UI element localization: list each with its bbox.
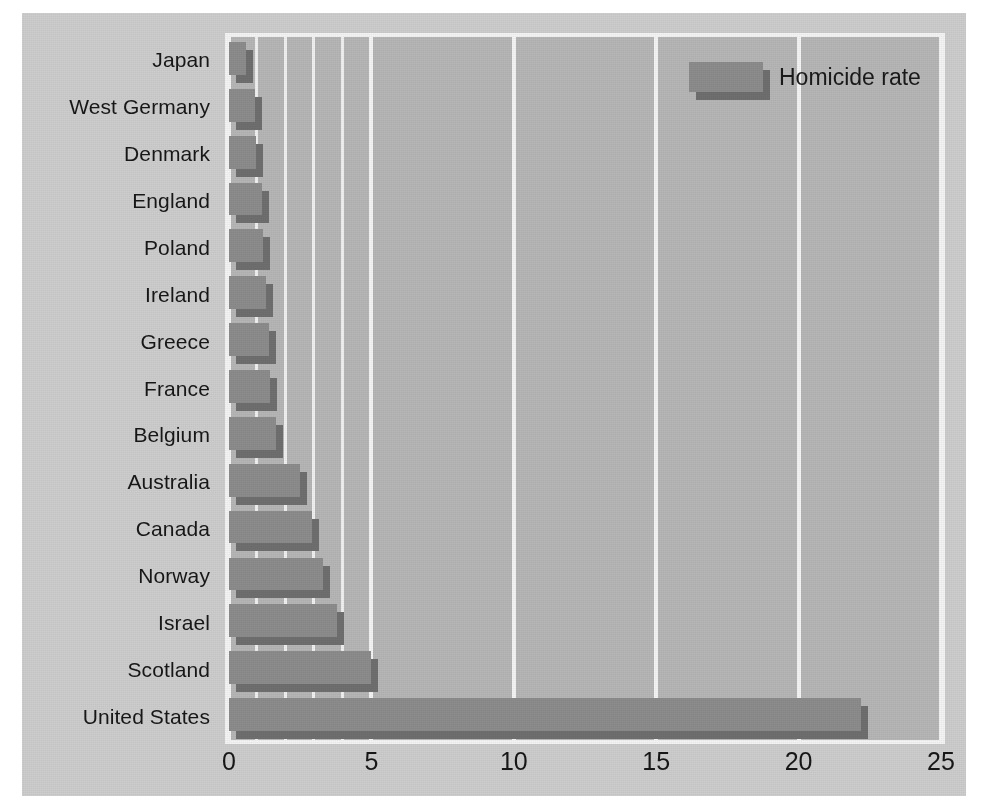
y-axis-tick-label: England <box>132 190 210 211</box>
bar-face <box>229 558 323 591</box>
bar-row[interactable] <box>229 229 941 262</box>
y-axis-tick-label: Canada <box>136 518 210 539</box>
bar[interactable] <box>229 42 246 75</box>
y-axis-tick-label: Japan <box>152 49 210 70</box>
y-axis-tick-label: Norway <box>138 565 210 586</box>
y-axis-tick-label: Belgium <box>133 424 210 445</box>
bar[interactable] <box>229 136 256 169</box>
bar-row[interactable] <box>229 323 941 356</box>
bar[interactable] <box>229 276 266 309</box>
bar[interactable] <box>229 417 276 450</box>
x-axis-labels: 0510152025 <box>225 749 945 793</box>
scan-canvas: JapanWest GermanyDenmarkEnglandPolandIre… <box>22 13 966 796</box>
bar-face <box>229 370 270 403</box>
x-axis-tick-label: 5 <box>364 749 378 774</box>
bar-face <box>229 323 269 356</box>
bar-row[interactable] <box>229 511 941 544</box>
bar-face <box>229 417 276 450</box>
bar-face <box>229 89 255 122</box>
y-axis-tick-label: Ireland <box>145 284 210 305</box>
bar-row[interactable] <box>229 558 941 591</box>
bar[interactable] <box>229 511 312 544</box>
y-axis-tick-label: Israel <box>158 612 210 633</box>
bar-face <box>229 698 861 731</box>
x-axis-tick-label: 10 <box>500 749 528 774</box>
bar-face <box>229 276 266 309</box>
bar-face <box>229 42 246 75</box>
bar[interactable] <box>229 604 337 637</box>
bar-rows <box>229 37 941 740</box>
bar-face <box>229 651 371 684</box>
bar[interactable] <box>229 183 262 216</box>
bar[interactable] <box>229 370 270 403</box>
bar[interactable] <box>229 229 263 262</box>
y-axis-tick-label: United States <box>83 706 210 727</box>
y-axis-tick-label: France <box>144 378 210 399</box>
y-axis-tick-label: Denmark <box>124 143 210 164</box>
plot-inner <box>229 37 941 740</box>
bar-row[interactable] <box>229 276 941 309</box>
bar[interactable] <box>229 89 255 122</box>
bar-row[interactable] <box>229 89 941 122</box>
bar-row[interactable] <box>229 464 941 497</box>
y-axis-tick-label: West Germany <box>69 96 210 117</box>
legend-label: Homicide rate <box>775 66 921 89</box>
legend-swatch-icon <box>689 62 763 92</box>
bar-row[interactable] <box>229 136 941 169</box>
bar-row[interactable] <box>229 417 941 450</box>
x-axis-tick-label: 0 <box>222 749 236 774</box>
bar[interactable] <box>229 323 269 356</box>
bar-face <box>229 183 262 216</box>
bar-face <box>229 511 312 544</box>
bar-row[interactable] <box>229 651 941 684</box>
y-axis-tick-label: Scotland <box>127 659 210 680</box>
bar[interactable] <box>229 558 323 591</box>
bar-row[interactable] <box>229 183 941 216</box>
x-axis-tick-label: 20 <box>785 749 813 774</box>
y-axis-tick-label: Greece <box>141 331 210 352</box>
bar-face <box>229 464 300 497</box>
bar[interactable] <box>229 651 371 684</box>
legend-swatch-face <box>689 62 763 92</box>
bar-face <box>229 229 263 262</box>
bar-face <box>229 604 337 637</box>
bar-row[interactable] <box>229 370 941 403</box>
x-axis-tick-label: 15 <box>642 749 670 774</box>
bar[interactable] <box>229 698 861 731</box>
bar-row[interactable] <box>229 604 941 637</box>
y-axis-tick-label: Poland <box>144 237 210 258</box>
chart-legend: Homicide rate <box>689 62 921 92</box>
plot-area <box>225 33 945 744</box>
x-axis-tick-label: 25 <box>927 749 955 774</box>
y-axis-tick-label: Australia <box>127 471 210 492</box>
bar-face <box>229 136 256 169</box>
bar[interactable] <box>229 464 300 497</box>
y-axis-labels: JapanWest GermanyDenmarkEnglandPolandIre… <box>22 33 218 744</box>
chart-page: JapanWest GermanyDenmarkEnglandPolandIre… <box>0 0 986 809</box>
bar-row[interactable] <box>229 698 941 731</box>
